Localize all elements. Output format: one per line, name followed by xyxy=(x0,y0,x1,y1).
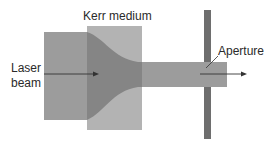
aperture-label: Aperture xyxy=(218,44,264,58)
output-arrowhead-icon xyxy=(241,72,247,77)
aperture-lower-plate xyxy=(204,87,211,139)
laser-beam-label-line1: Laser xyxy=(10,61,41,75)
kerr-medium-label: Kerr medium xyxy=(83,9,152,23)
input-beam xyxy=(44,32,87,120)
laser-beam-label-line2: beam xyxy=(10,76,41,90)
output-beam xyxy=(142,62,227,87)
aperture-upper-plate xyxy=(204,10,211,62)
